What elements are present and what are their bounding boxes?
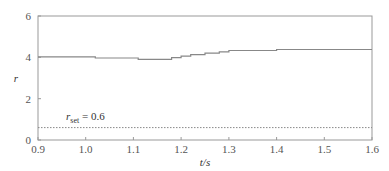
y-tick-label: 4 <box>26 51 32 63</box>
series-r-line <box>38 50 372 60</box>
y-axis-label: r <box>14 72 19 84</box>
x-tick-label: 1.5 <box>317 143 331 155</box>
x-tick-label: 0.9 <box>31 143 45 155</box>
y-axis: 0 2 4 6 r <box>14 10 41 146</box>
x-tick-label: 1.3 <box>222 143 236 155</box>
x-axis: 0.9 1.0 1.1 1.2 1.3 1.4 1.5 1.6 t/s <box>31 137 379 168</box>
x-tick-label: 1.4 <box>270 143 284 155</box>
y-tick-label: 2 <box>26 93 32 105</box>
x-axis-label: t/s <box>200 156 210 168</box>
chart: 0 2 4 6 r 0.9 1.0 1.1 1.2 1.3 1.4 1.5 1.… <box>0 0 389 171</box>
x-tick-label: 1.0 <box>79 143 93 155</box>
x-tick-label: 1.1 <box>127 143 141 155</box>
x-tick-label: 1.6 <box>365 143 379 155</box>
rset-annotation: rset = 0.6 <box>66 110 105 125</box>
x-tick-label: 1.2 <box>174 143 188 155</box>
y-tick-label: 6 <box>26 10 32 22</box>
